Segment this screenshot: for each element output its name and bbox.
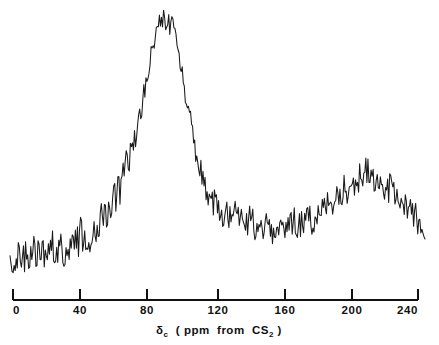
nmr-spectrum-figure: 04080120160200240 δc ( ppm from CS2 ) <box>0 0 439 345</box>
spectrum-trace <box>10 10 425 272</box>
x-axis-ticks <box>13 289 418 300</box>
x-axis-label-240: 240 <box>397 304 418 316</box>
x-axis-title: δc ( ppm from CS2 ) <box>156 324 282 339</box>
x-axis-label-200: 200 <box>342 304 363 316</box>
axis-title-rest: ( ppm from CS <box>168 324 269 336</box>
spectrum-trace-group <box>10 10 425 272</box>
axis-title-close: ) <box>274 324 282 336</box>
x-axis-label-120: 120 <box>208 304 229 316</box>
x-axis-title-group: δc ( ppm from CS2 ) <box>156 324 282 339</box>
x-axis-label-160: 160 <box>275 304 296 316</box>
spectrum-plot: 04080120160200240 δc ( ppm from CS2 ) <box>0 0 439 345</box>
delta-symbol: δ <box>156 324 163 336</box>
x-axis-label-80: 80 <box>140 304 154 316</box>
x-axis-label-40: 40 <box>73 304 87 316</box>
x-axis-label-0: 0 <box>13 304 20 316</box>
x-axis-tick-labels: 04080120160200240 <box>13 304 418 316</box>
x-axis-group: 04080120160200240 <box>13 289 418 316</box>
